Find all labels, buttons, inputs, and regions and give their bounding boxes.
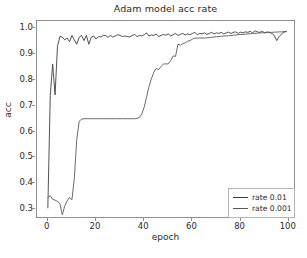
x-tick-label: 80: [224, 221, 256, 231]
line-series-rate-0-01: [48, 31, 287, 208]
legend-swatch-icon: [233, 208, 248, 209]
x-tick-mark: [191, 218, 192, 221]
legend-label: rate 0.01: [252, 193, 287, 202]
x-tick-mark: [240, 218, 241, 221]
x-axis-label: epoch: [36, 232, 295, 242]
legend: rate 0.01 rate 0.001: [228, 188, 295, 218]
chart-figure: Adam model acc rate acc 0.30.40.50.60.70…: [0, 0, 307, 258]
x-tick-label: 100: [272, 221, 304, 231]
x-tick-label: 20: [79, 221, 111, 231]
x-tick-label: 40: [127, 221, 159, 231]
x-tick-label: 0: [31, 221, 63, 231]
legend-item: rate 0.001: [233, 203, 291, 214]
x-tick-label: 60: [175, 221, 207, 231]
legend-swatch-icon: [233, 197, 248, 198]
x-tick-mark: [288, 218, 289, 221]
x-tick-mark: [143, 218, 144, 221]
x-tick-mark: [47, 218, 48, 221]
x-tick-mark: [95, 218, 96, 221]
legend-label: rate 0.001: [252, 204, 292, 213]
legend-item: rate 0.01: [233, 192, 291, 203]
